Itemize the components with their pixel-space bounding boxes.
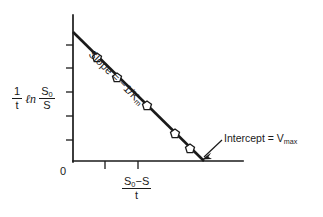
y-axis-argument-fraction: S0 S <box>39 86 55 111</box>
y-axis-label: 1 t ℓn S0 S <box>12 86 55 111</box>
x-axis-numerator: S0−S <box>122 176 151 188</box>
x-axis-ticks <box>105 161 138 169</box>
intercept-annotation-text: Intercept = V <box>224 132 284 144</box>
origin-label: 0 <box>60 166 66 178</box>
substrate-symbol: S <box>142 175 149 187</box>
y-axis-argument-numerator: S0 <box>39 86 55 98</box>
y-axis-argument-denominator: S <box>41 99 52 111</box>
y-axis-coefficient-denominator: t <box>14 99 21 111</box>
x-axis-fraction: S0−S t <box>122 176 151 201</box>
intercept-arrow-shaft <box>204 140 222 157</box>
intercept-annotation-subscript: max <box>284 138 297 146</box>
axis-lines <box>73 15 243 162</box>
y-axis-ticks <box>66 45 73 140</box>
y-axis-coefficient-numerator: 1 <box>12 86 22 98</box>
x-axis-label: S0−S t <box>122 176 151 201</box>
y-axis-coefficient-fraction: 1 t <box>12 86 22 111</box>
intercept-annotation: Intercept = Vmax <box>224 133 297 144</box>
intercept-arrow <box>202 140 222 160</box>
figure-panel: 1 t ℓn S0 S S0−S t 0 Slope = −1/Km Inter… <box>0 0 323 217</box>
natural-log-symbol: ℓn <box>22 93 39 106</box>
x-axis-denominator: t <box>133 189 140 201</box>
